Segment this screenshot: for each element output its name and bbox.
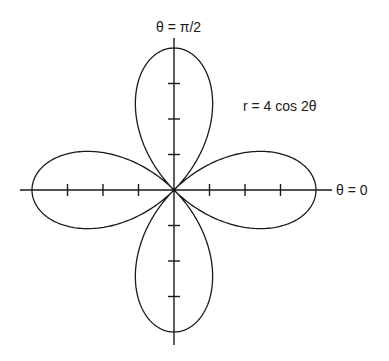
polar-rose-plot: θ = π/2 r = 4 cos 2θ θ = 0: [0, 0, 389, 361]
theta-zero-label: θ = 0: [336, 182, 368, 198]
origin-dot: [172, 188, 176, 192]
equation-label: r = 4 cos 2θ: [243, 98, 317, 114]
theta-half-pi-label: θ = π/2: [156, 19, 201, 35]
